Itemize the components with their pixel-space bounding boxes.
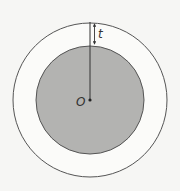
concentric-circles-diagram: t O: [0, 0, 180, 191]
center-point: [88, 98, 91, 101]
center-label: O: [76, 95, 85, 109]
